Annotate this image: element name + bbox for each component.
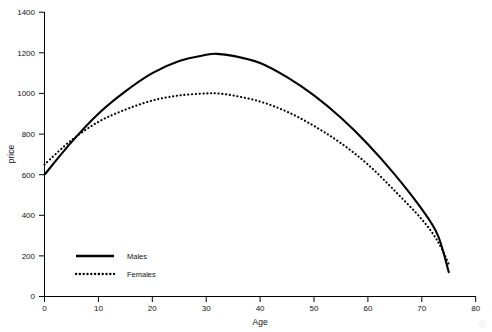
x-tick-label: 20 (148, 304, 157, 313)
y-tick-label: 1200 (17, 49, 35, 58)
x-axis-title: Age (253, 317, 268, 327)
watermark-mark: ⓒ (479, 320, 485, 328)
y-axis-ticks: 0 200 400 600 800 1000 1200 1400 (17, 8, 44, 301)
legend-label-males: Males (127, 252, 147, 261)
x-tick-label: 40 (256, 304, 265, 313)
x-tick-label: 70 (417, 304, 426, 313)
y-tick-label: 1400 (17, 8, 35, 17)
x-tick-label: 0 (42, 304, 47, 313)
x-tick-label: 50 (310, 304, 319, 313)
x-tick-label: 10 (94, 304, 103, 313)
y-tick-label: 600 (22, 171, 36, 180)
chart-container: 0 200 400 600 800 1000 1200 1400 0 10 20… (0, 0, 492, 332)
x-axis-ticks: 0 10 20 30 40 50 60 70 80 (42, 297, 480, 314)
x-tick-label: 80 (471, 304, 480, 313)
legend-label-females: Females (127, 270, 156, 279)
y-tick-label: 0 (31, 292, 36, 301)
chart-legend: Males Females (76, 252, 156, 279)
y-tick-label: 1000 (17, 89, 35, 98)
x-tick-label: 30 (202, 304, 211, 313)
x-tick-label: 60 (363, 304, 372, 313)
y-tick-label: 800 (22, 130, 36, 139)
y-tick-label: 200 (22, 252, 36, 261)
y-axis-title: price (6, 145, 16, 164)
line-chart: 0 200 400 600 800 1000 1200 1400 0 10 20… (0, 0, 492, 332)
series-line-females (45, 93, 449, 264)
y-tick-label: 400 (22, 211, 36, 220)
series-line-males (45, 54, 449, 272)
